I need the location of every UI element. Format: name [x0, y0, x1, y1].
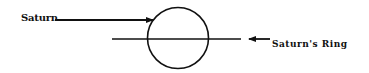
ring-system-label: Saturn's Ring System as Seen from the Pl… — [272, 14, 357, 73]
saturn-label: Saturn — [21, 12, 58, 23]
ring-label-line: Saturn's Ring — [272, 38, 357, 50]
saturn-globe — [148, 8, 209, 69]
